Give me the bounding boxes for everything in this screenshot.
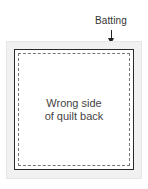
quilt-back-caption: Wrong side of quilt back xyxy=(15,97,133,123)
caption-line-2: of quilt back xyxy=(15,110,133,123)
quilt-back: Wrong side of quilt back xyxy=(14,49,134,170)
caption-line-1: Wrong side xyxy=(15,97,133,110)
batting-label: Batting xyxy=(95,15,127,26)
